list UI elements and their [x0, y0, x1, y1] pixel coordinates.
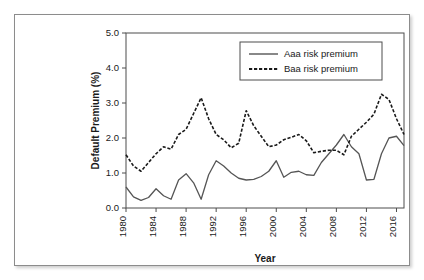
y-tick-label: 5.0 — [106, 27, 119, 38]
x-tick-label: 1988 — [177, 216, 188, 237]
x-tick-label: 2004 — [297, 216, 308, 237]
x-tick-label: 2000 — [267, 216, 278, 237]
x-tick-label: 1992 — [207, 216, 218, 237]
y-tick-label: 3.0 — [106, 97, 119, 108]
legend-label-baa: Baa risk premium — [284, 63, 358, 74]
x-tick-label: 2016 — [387, 216, 398, 237]
plot-area: 0.01.02.03.04.05.01980198419881992199620… — [90, 27, 404, 264]
x-tick-label: 2012 — [357, 216, 368, 237]
legend-label-aaa: Aaa risk premium — [284, 48, 358, 59]
default-premium-line-chart: 0.01.02.03.04.05.01980198419881992199620… — [0, 0, 424, 280]
y-tick-label: 1.0 — [106, 167, 119, 178]
y-tick-label: 2.0 — [106, 132, 119, 143]
y-axis-title: Default Premium (%) — [90, 72, 101, 170]
y-tick-label: 0.0 — [106, 202, 119, 213]
x-tick-label: 2008 — [327, 216, 338, 237]
x-tick-label: 1984 — [147, 216, 158, 237]
x-tick-label: 1996 — [237, 216, 248, 237]
x-axis-title: Year — [254, 253, 275, 264]
x-tick-label: 1980 — [117, 216, 128, 237]
y-tick-label: 4.0 — [106, 62, 119, 73]
